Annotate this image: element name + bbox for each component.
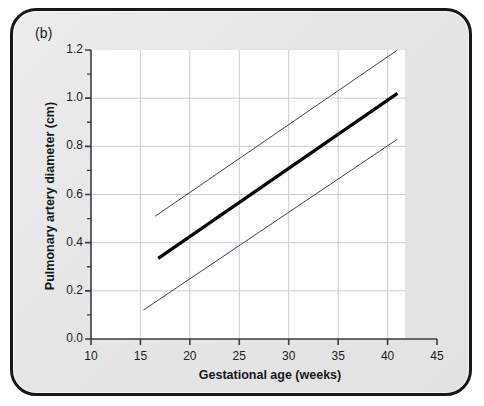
y-tick-label: 0.6 (39, 187, 83, 201)
x-tick-label: 20 (170, 349, 210, 363)
x-tick-label: 10 (71, 349, 111, 363)
y-tick-label: 1.0 (39, 90, 83, 104)
y-tick-label: 0.4 (39, 235, 83, 249)
y-tick-label: 0.8 (39, 138, 83, 152)
y-tick-label: 0.0 (39, 331, 83, 345)
x-tick-label: 25 (219, 349, 259, 363)
x-tick-label: 35 (318, 349, 358, 363)
x-tick-label: 15 (120, 349, 160, 363)
figure-frame: (b) Pulmonary artery diameter (cm) Gesta… (10, 8, 472, 396)
x-tick-label: 45 (417, 349, 457, 363)
x-tick-label: 30 (269, 349, 309, 363)
x-tick-label: 40 (368, 349, 408, 363)
y-tick-label: 1.2 (39, 42, 83, 56)
y-tick-label: 0.2 (39, 283, 83, 297)
